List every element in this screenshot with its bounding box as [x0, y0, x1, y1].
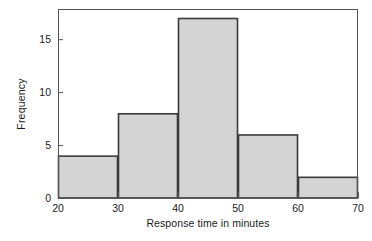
histogram-bar — [299, 177, 358, 198]
histogram-bar — [59, 156, 118, 198]
histogram-bar — [179, 19, 238, 199]
plot-area — [0, 0, 372, 241]
histogram-bar — [239, 135, 298, 198]
histogram-figure: Frequency 051015 203040506070 Response t… — [0, 0, 372, 241]
histogram-bars — [59, 19, 358, 199]
histogram-bar — [119, 114, 178, 198]
